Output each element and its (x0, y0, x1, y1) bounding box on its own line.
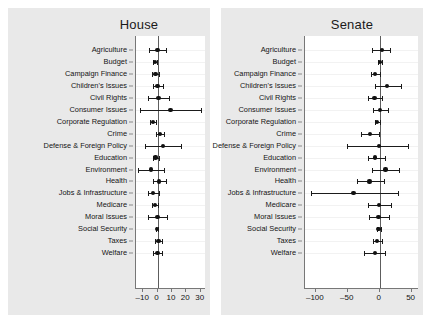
ci-upper-cap (162, 251, 163, 256)
point-estimate-marker (372, 96, 376, 100)
point-estimate-marker (378, 60, 382, 64)
point-estimate-marker (367, 179, 371, 183)
ci-lower-cap (149, 48, 150, 53)
y-axis-tick (129, 169, 133, 170)
y-axis-tick (129, 97, 133, 98)
ci-upper-cap (385, 251, 386, 256)
gridline (136, 181, 205, 182)
gridline (305, 205, 418, 206)
ci-lower-cap (368, 203, 369, 208)
y-axis-tick (298, 217, 302, 218)
y-axis-tick (129, 253, 133, 254)
category-label: Civil Rights (259, 94, 296, 101)
ci-lower-cap (357, 179, 358, 184)
ci-upper-cap (401, 84, 402, 89)
ci-lower-cap (153, 179, 154, 184)
ci-lower-cap (347, 144, 348, 149)
y-axis-tick (129, 121, 133, 122)
ci-lower-cap (375, 84, 376, 89)
y-axis-tick (298, 157, 302, 158)
category-label: Social Security (247, 226, 296, 233)
ci-upper-cap (157, 60, 158, 65)
y-axis-tick (129, 145, 133, 146)
ci-upper-cap (169, 96, 170, 101)
x-axis-tick (411, 288, 412, 292)
x-axis-tick (200, 288, 201, 292)
y-axis-tick (298, 85, 302, 86)
ci-upper-cap (398, 191, 399, 196)
y-axis-tick (129, 229, 133, 230)
ci-lower-cap (368, 96, 369, 101)
ci-upper-cap (399, 168, 400, 173)
ci-lower-cap (148, 191, 149, 196)
y-axis-tick (298, 50, 302, 51)
category-label: Social Security (78, 226, 127, 233)
x-axis-tick-label: 10 (166, 294, 175, 302)
category-label: Taxes (108, 237, 127, 244)
category-label: Children's Issues (240, 82, 296, 89)
x-axis-tick-label: –100 (306, 294, 324, 302)
ci-upper-cap (385, 156, 386, 161)
point-estimate-marker (161, 144, 165, 148)
ci-lower-cap (153, 251, 154, 256)
x-axis-tick (157, 288, 158, 292)
ci-lower-cap (156, 132, 157, 137)
point-estimate-marker (155, 84, 159, 88)
y-axis-tick (298, 181, 302, 182)
y-axis-tick (298, 193, 302, 194)
ci-upper-cap (408, 144, 409, 149)
ci-upper-cap (159, 72, 160, 77)
x-axis-tick-label: –50 (340, 294, 353, 302)
category-label: Defense & Foreign Policy (213, 142, 296, 149)
panel-senate-title: Senate (221, 17, 423, 32)
ci-upper-cap (159, 156, 160, 161)
ci-upper-cap (162, 239, 163, 244)
x-axis-tick (315, 288, 316, 292)
category-label: Environment (255, 166, 297, 173)
category-label: Agriculture (261, 46, 296, 53)
gridline (305, 253, 418, 254)
panel-senate: Senate AgricultureBudgetCampaign Finance… (221, 8, 423, 315)
ci-upper-cap (164, 132, 165, 137)
point-estimate-marker (155, 251, 159, 255)
y-axis-tick (298, 61, 302, 62)
y-axis-tick (298, 73, 302, 74)
point-estimate-marker (153, 203, 157, 207)
point-estimate-marker (373, 155, 377, 159)
ci-upper-cap (382, 96, 383, 101)
category-label: Campaign Finance (234, 70, 296, 77)
category-label: Defense & Foreign Policy (44, 142, 127, 149)
category-label: Campaign Finance (65, 70, 127, 77)
gridline (136, 50, 205, 51)
gridline (305, 122, 418, 123)
point-estimate-marker (380, 48, 384, 52)
y-axis-tick (129, 50, 133, 51)
category-label: Environment (86, 166, 128, 173)
gridline (136, 158, 205, 159)
forest-plot-figure: House AgricultureBudgetCampaign FinanceC… (0, 0, 431, 323)
category-label: Civil Rights (90, 94, 127, 101)
ci-upper-cap (158, 203, 159, 208)
ci-upper-cap (380, 120, 381, 125)
panel-senate-x-axis: –100–50050 (304, 288, 418, 289)
category-label: Budget (104, 58, 127, 65)
x-axis-tick (185, 288, 186, 292)
ci-upper-cap (380, 72, 381, 77)
y-axis-tick (129, 205, 133, 206)
point-estimate-marker (153, 72, 157, 76)
ci-upper-cap (159, 191, 160, 196)
point-estimate-marker (153, 60, 157, 64)
panel-house-category-labels: AgricultureBudgetCampaign FinanceChildre… (8, 36, 133, 288)
ci-upper-cap (389, 215, 390, 220)
category-label: Health (275, 178, 296, 185)
category-label: Taxes (277, 237, 296, 244)
category-label: Welfare (102, 249, 127, 256)
ci-lower-cap (145, 144, 146, 149)
category-label: Education (263, 154, 296, 161)
x-axis-tick-label: 20 (181, 294, 190, 302)
ci-lower-cap (140, 108, 141, 113)
ci-upper-cap (201, 108, 202, 113)
y-axis-tick (129, 193, 133, 194)
point-estimate-marker (376, 227, 380, 231)
y-axis-tick (298, 169, 302, 170)
